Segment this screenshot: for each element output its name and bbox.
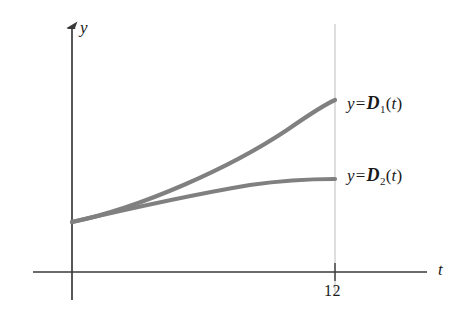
- curve-label-d2: y=D2(t): [347, 165, 402, 187]
- label-d1-function: D: [367, 93, 380, 113]
- label-d2-operator: =: [355, 166, 367, 185]
- plot-area: [0, 0, 457, 327]
- label-d2-function: D: [367, 165, 380, 185]
- curve-d1: [72, 100, 335, 222]
- label-d2-lhs: y: [347, 166, 355, 185]
- x-axis-label: t: [438, 260, 443, 280]
- label-d1-lhs: y: [347, 94, 355, 113]
- label-d2-paren-close: ): [396, 166, 402, 185]
- curve-d2: [72, 179, 335, 222]
- label-d1-operator: =: [355, 94, 367, 113]
- curve-label-d1: y=D1(t): [347, 93, 402, 115]
- y-axis-label: y: [80, 18, 88, 38]
- x-tick-label-12: 12: [324, 282, 341, 300]
- label-d1-paren-close: ): [396, 94, 402, 113]
- function-graph-figure: y t 12 y=D1(t) y=D2(t): [0, 0, 457, 327]
